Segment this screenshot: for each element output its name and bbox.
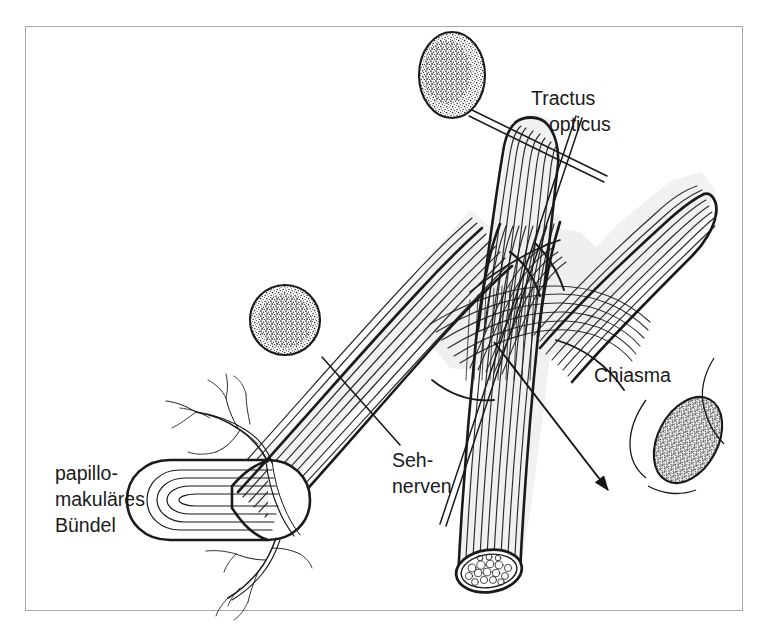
figure-page: Tractus opticus Chiasma Seh- nerven papi… [0, 0, 758, 641]
label-papillomakulaeres-line3: Bündel [55, 514, 116, 536]
optic-pathway-diagram: Tractus opticus Chiasma Seh- nerven papi… [0, 0, 758, 641]
label-tractus-opticus-line2: opticus [549, 113, 611, 135]
optic-disc [127, 460, 310, 540]
label-papillomakulaeres-line1: papillo- [55, 462, 118, 484]
label-sehnerven-line1: Seh- [392, 449, 433, 471]
label-sehnerven-line2: nerven [392, 475, 452, 497]
inset-top-ellipse [419, 32, 485, 118]
label-tractus-opticus-line1: Tractus [531, 87, 596, 109]
label-chiasma: Chiasma [594, 364, 671, 386]
inset-middle-circle [250, 285, 320, 355]
label-papillomakulaeres-line2: makuläres [55, 488, 145, 510]
